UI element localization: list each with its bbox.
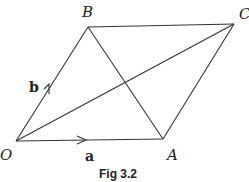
label-vector-a: a — [85, 148, 94, 164]
label-A: A — [165, 146, 178, 164]
label-vector-b: b — [29, 79, 39, 95]
diagonal-AB — [88, 27, 163, 139]
label-C: C — [239, 5, 249, 23]
segment-OB — [16, 27, 88, 141]
segment-OA — [16, 139, 163, 141]
segment-BC — [88, 24, 234, 27]
figure-caption: Fig 3.2 — [99, 167, 137, 181]
label-B: B — [81, 3, 93, 21]
label-O: O — [0, 146, 12, 164]
parallelogram-diagram: O A B C a b Fig 3.2 — [0, 0, 249, 182]
segment-AC — [163, 24, 234, 139]
